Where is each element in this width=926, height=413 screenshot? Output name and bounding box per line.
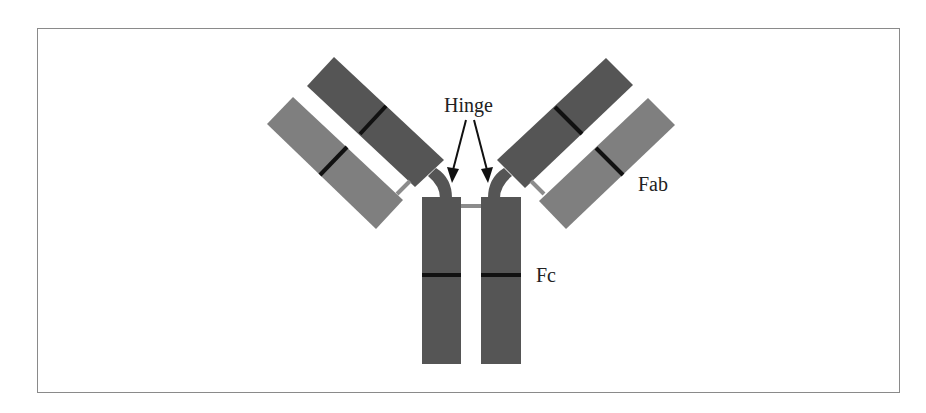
fc-left-chain	[422, 197, 461, 364]
fc-left-domain-divider	[422, 273, 461, 277]
fab-label: Fab	[638, 174, 668, 194]
left-hinge-curve	[428, 168, 452, 198]
right-hinge-curve	[488, 168, 512, 198]
fc-label: Fc	[536, 265, 556, 285]
antibody-diagram	[0, 0, 926, 413]
hinge-label: Hinge	[444, 95, 493, 115]
left-interchain-bridge	[397, 181, 410, 194]
hinge-arrows	[447, 120, 493, 183]
right-interchain-bridge	[531, 181, 544, 194]
fc-right-chain	[481, 197, 521, 364]
hinge-disulfide-bridge	[461, 204, 481, 208]
fc-right-domain-divider	[481, 273, 521, 277]
